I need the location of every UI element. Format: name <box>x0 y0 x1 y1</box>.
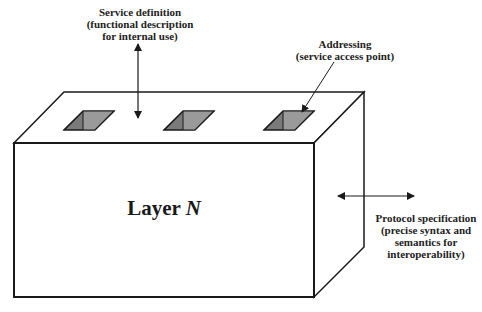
protocol-specification-desc-1: (precise syntax and <box>370 224 482 236</box>
service-definition-title: Service definition <box>85 6 195 18</box>
protocol-specification-title: Protocol specification <box>370 212 482 224</box>
addressing-desc: (service access point) <box>290 50 400 62</box>
addressing-title: Addressing <box>290 38 400 50</box>
layer-label: Layer N <box>104 196 224 221</box>
layer-variable: N <box>186 196 201 220</box>
service-definition-desc-1: (functional description <box>85 18 195 30</box>
layer-word: Layer <box>127 196 180 220</box>
protocol-specification-desc-2: semantics for <box>370 236 482 248</box>
service-definition-label: Service definition (functional descripti… <box>85 6 195 42</box>
protocol-specification-desc-3: interoperability) <box>370 248 482 260</box>
service-definition-desc-2: for internal use) <box>85 30 195 42</box>
addressing-label: Addressing (service access point) <box>290 38 400 62</box>
layer-box-diagram <box>0 0 482 312</box>
protocol-specification-label: Protocol specification (precise syntax a… <box>370 212 482 260</box>
